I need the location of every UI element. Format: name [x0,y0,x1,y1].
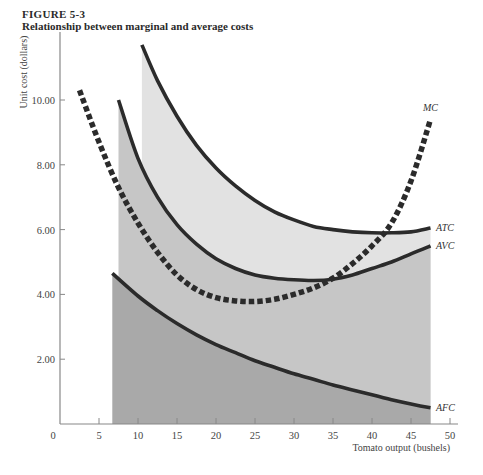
x-tick-label: 35 [328,430,339,441]
afc-label: AFC [435,402,455,413]
x-tick-label: 30 [289,430,300,441]
y-tick-label: 4.00 [37,289,55,300]
x-tick-label: 15 [172,430,183,441]
x-tick-label: 40 [367,430,378,441]
x-tick-label: 25 [250,430,261,441]
y-tick-label: 6.00 [37,225,55,236]
atc-label: ATC [435,222,454,233]
x-axis-label: Tomato output (bushels) [352,442,450,454]
avc-label: AVC [435,240,455,251]
y-tick-label: 8.00 [37,160,55,171]
x-tick-label: 10 [133,430,144,441]
mc-label: MC [422,102,438,113]
x-tick-label: 20 [211,430,222,441]
y-axis-label: Unit cost (dollars) [18,36,30,109]
x-tick-label: 0 [50,430,55,441]
cost-curves-chart: 051015202530354045502.004.006.008.0010.0… [0,0,483,475]
y-tick-label: 10.00 [31,95,55,106]
x-tick-label: 5 [96,430,101,441]
x-tick-label: 50 [445,430,456,441]
x-tick-label: 45 [406,430,417,441]
y-tick-label: 2.00 [37,354,55,365]
